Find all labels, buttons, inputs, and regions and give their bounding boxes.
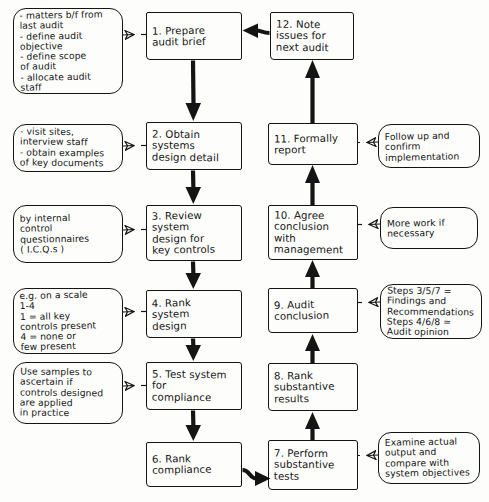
step-node-5[interactable]: 5. Test system for compliance bbox=[146, 362, 242, 410]
note-label-samples: Use samples to ascertain if controls des… bbox=[20, 367, 118, 419]
connector-note-icq bbox=[123, 230, 146, 231]
note-node-icq[interactable]: by internal control questionnaires ( I.C… bbox=[13, 205, 123, 263]
note-node-follow-up[interactable]: Follow up and confirm implementation bbox=[378, 124, 480, 168]
note-label-audit-brief-inputs: - matters b/f from last audit - define a… bbox=[19, 9, 117, 93]
step-label-10: 10. Agree conclusion with management bbox=[274, 209, 353, 256]
connector-step12-step1 bbox=[243, 24, 270, 39]
step-label-11: 11. Formally report bbox=[274, 132, 353, 156]
note-label-icq: by internal control questionnaires ( I.C… bbox=[20, 213, 118, 256]
connector-step3-step4 bbox=[186, 262, 202, 290]
note-label-examine-output: Examine actual output and compare with s… bbox=[385, 437, 475, 480]
connector-note-morework bbox=[358, 224, 380, 225]
step-label-9: 9. Audit conclusion bbox=[274, 298, 353, 323]
step-label-12: 12. Note issues for next audit bbox=[276, 18, 349, 53]
flowchart-canvas: 1. Prepare audit brief 2. Obtain systems… bbox=[0, 0, 489, 502]
note-node-audit-brief-inputs[interactable]: - matters b/f from last audit - define a… bbox=[13, 8, 123, 94]
connector-note-systems bbox=[123, 146, 146, 147]
connector-note-steps bbox=[358, 302, 380, 303]
note-node-step-mapping[interactable]: Steps 3/5/7 = Findings and Recommendatio… bbox=[380, 284, 482, 339]
note-label-follow-up: Follow up and confirm implementation bbox=[385, 130, 475, 163]
connector-step9-step10 bbox=[305, 260, 320, 288]
connector-step6-step7 bbox=[243, 470, 271, 486]
connector-step2-step3 bbox=[186, 171, 202, 205]
note-label-ranking-scale: e.g. on a scale 1-4 1 = all key controls… bbox=[19, 289, 117, 353]
note-node-ranking-scale[interactable]: e.g. on a scale 1-4 1 = all key controls… bbox=[13, 288, 123, 354]
step-label-2: 2. Obtain systems design detail bbox=[152, 128, 237, 163]
note-label-more-work: More work if necessary bbox=[387, 217, 472, 239]
step-node-6[interactable]: 6. Rank compliance bbox=[146, 442, 242, 487]
connector-note-followup bbox=[358, 142, 378, 143]
step-label-4: 4. Rank system design bbox=[152, 296, 238, 332]
step-label-5: 5. Test system for compliance bbox=[152, 368, 237, 403]
step-node-8[interactable]: 8. Rank substantive results bbox=[268, 363, 358, 411]
connector-note-examine bbox=[358, 455, 378, 456]
note-node-more-work[interactable]: More work if necessary bbox=[380, 207, 478, 249]
step-label-1: 1. Prepare audit brief bbox=[152, 24, 237, 48]
connector-step7-step8 bbox=[305, 412, 320, 440]
step-label-7: 7. Perform substantive tests bbox=[274, 447, 353, 482]
note-node-examine-output[interactable]: Examine actual output and compare with s… bbox=[378, 432, 480, 484]
step-label-8: 8. Rank substantive results bbox=[274, 369, 354, 405]
note-node-systems-inputs[interactable]: - visit sites, interview staff - obtain … bbox=[13, 124, 123, 172]
connector-note-brief bbox=[123, 35, 146, 36]
step-node-7[interactable]: 7. Perform substantive tests bbox=[268, 440, 358, 490]
connector-step8-step9 bbox=[305, 334, 320, 363]
note-label-step-mapping: Steps 3/5/7 = Findings and Recommendatio… bbox=[387, 285, 477, 337]
note-node-samples[interactable]: Use samples to ascertain if controls des… bbox=[13, 362, 123, 424]
step-node-4[interactable]: 4. Rank system design bbox=[146, 290, 242, 338]
step-node-12[interactable]: 12. Note issues for next audit bbox=[270, 12, 354, 60]
step-node-1[interactable]: 1. Prepare audit brief bbox=[146, 12, 242, 60]
step-label-3: 3. Review system design for key controls bbox=[152, 209, 238, 256]
connector-step4-step5 bbox=[186, 339, 202, 362]
note-label-systems-inputs: - visit sites, interview staff - obtain … bbox=[20, 127, 117, 169]
connector-step11-step12 bbox=[305, 60, 320, 123]
step-label-6: 6. Rank compliance bbox=[152, 452, 237, 476]
connector-step1-step2 bbox=[186, 61, 202, 122]
step-node-2[interactable]: 2. Obtain systems design detail bbox=[146, 122, 242, 170]
step-node-11[interactable]: 11. Formally report bbox=[268, 123, 358, 165]
connector-note-scale bbox=[123, 312, 146, 313]
step-node-9[interactable]: 9. Audit conclusion bbox=[268, 288, 358, 333]
step-node-3[interactable]: 3. Review system design for key controls bbox=[146, 205, 242, 261]
connector-step10-step11 bbox=[305, 165, 320, 205]
connector-note-samples bbox=[123, 386, 146, 387]
step-node-10[interactable]: 10. Agree conclusion with management bbox=[268, 205, 358, 260]
connector-step5-step6 bbox=[186, 411, 202, 442]
